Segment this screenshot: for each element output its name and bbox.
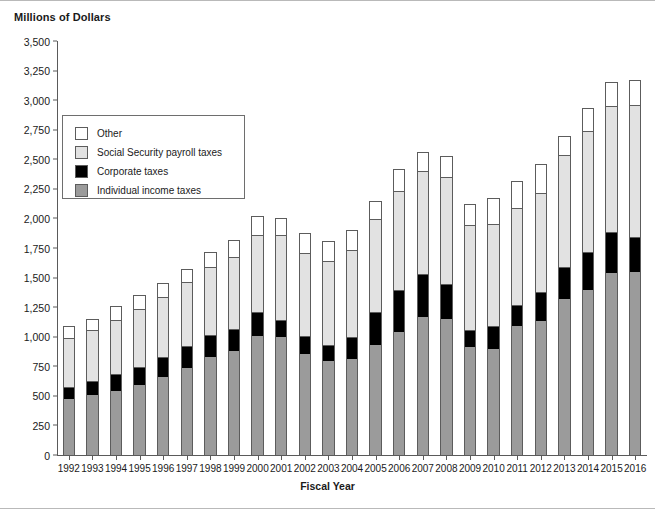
bar-segment-indiv xyxy=(583,290,594,455)
y-axis-tick-label: 3,250 xyxy=(24,65,50,77)
bar-segment-ss xyxy=(182,282,193,346)
stacked-bar[interactable] xyxy=(487,198,500,455)
bar-group[interactable] xyxy=(133,41,146,455)
stacked-bar[interactable] xyxy=(393,169,406,455)
stacked-bar[interactable] xyxy=(535,164,548,455)
stacked-bar[interactable] xyxy=(251,216,264,455)
bar-group[interactable] xyxy=(110,41,123,455)
bar-segment-other xyxy=(64,326,75,338)
bar-group[interactable] xyxy=(582,41,595,455)
bar-segment-corp xyxy=(111,374,122,391)
stacked-bar[interactable] xyxy=(157,283,170,455)
x-axis-tick-label: 2002 xyxy=(294,463,316,474)
bar-segment-other xyxy=(276,218,287,235)
stacked-bar[interactable] xyxy=(440,156,453,455)
bar-group[interactable] xyxy=(440,41,453,455)
y-axis-tick: 1,250 xyxy=(0,307,57,308)
stacked-bar[interactable] xyxy=(110,306,123,455)
legend-swatch-icon xyxy=(75,127,88,140)
stacked-bar[interactable] xyxy=(582,108,595,455)
bar-group[interactable] xyxy=(181,41,194,455)
stacked-bar[interactable] xyxy=(275,218,288,455)
stacked-bar[interactable] xyxy=(558,136,571,455)
bar-segment-ss xyxy=(252,235,263,312)
legend-item[interactable]: Social Security payroll taxes xyxy=(75,144,244,161)
bar-group[interactable] xyxy=(157,41,170,455)
bar-group[interactable] xyxy=(369,41,382,455)
stacked-bar[interactable] xyxy=(86,319,99,455)
bar-segment-ss xyxy=(276,235,287,319)
bar-segment-indiv xyxy=(323,361,334,455)
bar-group[interactable] xyxy=(535,41,548,455)
stacked-bar[interactable] xyxy=(181,269,194,455)
bar-group[interactable] xyxy=(299,41,312,455)
stacked-bar[interactable] xyxy=(417,152,430,455)
legend-item[interactable]: Corporate taxes xyxy=(75,163,244,180)
x-axis-tick-mark xyxy=(541,455,542,460)
y-axis-tick: 3,000 xyxy=(0,100,57,101)
x-axis-tick-label: 2003 xyxy=(317,463,339,474)
bar-segment-ss xyxy=(441,177,452,283)
bar-group[interactable] xyxy=(275,41,288,455)
bar-group[interactable] xyxy=(204,41,217,455)
bar-group[interactable] xyxy=(251,41,264,455)
bar-segment-ss xyxy=(64,338,75,387)
plot-area: 3,5003,2503,0002,7502,5002,2502,0001,750… xyxy=(57,41,647,455)
bar-group[interactable] xyxy=(63,41,76,455)
stacked-bar[interactable] xyxy=(228,240,241,455)
bar-segment-ss xyxy=(488,224,499,326)
stacked-bar[interactable] xyxy=(133,295,146,455)
bar-segment-indiv xyxy=(630,272,641,455)
bar-segment-other xyxy=(229,240,240,257)
x-axis-tick-label: 2015 xyxy=(600,463,622,474)
stacked-bar[interactable] xyxy=(322,241,335,455)
x-axis-tick-mark xyxy=(69,455,70,460)
bar-segment-indiv xyxy=(536,321,547,455)
stacked-bar[interactable] xyxy=(299,233,312,455)
y-axis-tick-mark xyxy=(53,366,57,367)
bar-segment-ss xyxy=(87,330,98,381)
y-axis-tick-mark xyxy=(53,129,57,130)
bar-group[interactable] xyxy=(393,41,406,455)
legend-swatch-icon xyxy=(75,146,88,159)
bar-group[interactable] xyxy=(228,41,241,455)
stacked-bar[interactable] xyxy=(629,80,642,455)
bar-group[interactable] xyxy=(558,41,571,455)
bar-group[interactable] xyxy=(629,41,642,455)
bar-segment-corp xyxy=(300,336,311,354)
x-axis-tick-label: 1994 xyxy=(105,463,127,474)
legend-item[interactable]: Other xyxy=(75,125,244,142)
bar-group[interactable] xyxy=(511,41,524,455)
x-axis-tick-label: 1996 xyxy=(152,463,174,474)
bar-group[interactable] xyxy=(487,41,500,455)
bar-segment-other xyxy=(465,204,476,225)
bar-segment-indiv xyxy=(276,337,287,455)
bar-group[interactable] xyxy=(86,41,99,455)
stacked-bar[interactable] xyxy=(369,201,382,455)
stacked-bar[interactable] xyxy=(346,230,359,455)
x-axis-tick-label: 1992 xyxy=(58,463,80,474)
bar-segment-other xyxy=(347,230,358,251)
stacked-bar[interactable] xyxy=(204,252,217,455)
bar-segment-other xyxy=(158,283,169,297)
stacked-bar[interactable] xyxy=(63,326,76,455)
stacked-bar[interactable] xyxy=(605,82,618,455)
bar-group[interactable] xyxy=(417,41,430,455)
bar-segment-ss xyxy=(559,155,570,267)
stacked-bar[interactable] xyxy=(464,204,477,455)
x-axis-tick-label: 2010 xyxy=(482,463,504,474)
bar-group[interactable] xyxy=(322,41,335,455)
bar-group[interactable] xyxy=(346,41,359,455)
bar-group[interactable] xyxy=(464,41,477,455)
bar-segment-indiv xyxy=(559,299,570,455)
y-axis-tick-mark xyxy=(53,277,57,278)
legend-item[interactable]: Individual income taxes xyxy=(75,182,244,199)
stacked-bar[interactable] xyxy=(511,181,524,455)
bar-group[interactable] xyxy=(605,41,618,455)
bar-segment-indiv xyxy=(300,354,311,455)
x-axis-tick-label: 2012 xyxy=(530,463,552,474)
bar-segment-ss xyxy=(370,219,381,313)
y-axis-tick: 1,500 xyxy=(0,277,57,278)
x-axis-tick-mark xyxy=(140,455,141,460)
chart-figure: Millions of Dollars 3,5003,2503,0002,750… xyxy=(0,0,655,509)
